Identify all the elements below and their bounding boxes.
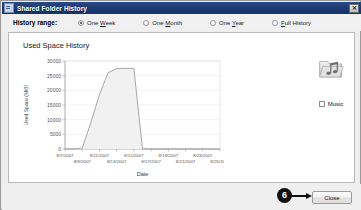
radio-one-year[interactable]: One Year [210, 20, 244, 26]
svg-text:8/23/2007: 8/23/2007 [193, 153, 213, 158]
history-range-label: History range: [13, 19, 57, 26]
svg-text:8/11/2007: 8/11/2007 [90, 153, 110, 158]
radio-dot-icon [78, 20, 84, 26]
music-checkbox-label: Music [328, 101, 344, 107]
shared-folder-history-window: Shared Folder History ✕ History range: O… [0, 0, 361, 210]
checkbox-icon [319, 101, 325, 107]
radio-one-week[interactable]: One Week [78, 20, 115, 26]
svg-text:10000: 10000 [47, 117, 61, 123]
content-panel: Used Space History 300002500020000150001… [8, 32, 355, 183]
svg-text:Date: Date [137, 171, 149, 177]
radio-one-year-label-pre: One [219, 20, 232, 26]
radio-full-history[interactable]: Full History [272, 20, 311, 26]
radio-one-month-label-post: onth [170, 20, 182, 26]
music-folder-icon [318, 55, 344, 81]
svg-text:8/19/2007: 8/19/2007 [159, 153, 179, 158]
radio-one-week-label-post: eek [106, 20, 116, 26]
close-icon[interactable]: ✕ [349, 4, 359, 13]
svg-text:8/25/2007: 8/25/2007 [210, 159, 224, 164]
radio-one-week-label-pre: One [87, 20, 100, 26]
svg-text:25000: 25000 [47, 73, 61, 79]
title-bar: Shared Folder History ✕ [2, 2, 361, 14]
history-range-radio-group: One Week One Month One Year Full History [78, 20, 339, 26]
svg-text:8/15/2007: 8/15/2007 [124, 153, 144, 158]
close-button[interactable]: Close [312, 191, 352, 204]
svg-text:0: 0 [58, 146, 61, 152]
svg-text:20000: 20000 [47, 87, 61, 93]
music-checkbox[interactable]: Music [311, 101, 351, 107]
svg-text:5000: 5000 [50, 131, 61, 137]
radio-dot-icon [272, 20, 278, 26]
window-app-icon [4, 3, 14, 13]
svg-text:8/7/2007: 8/7/2007 [56, 153, 74, 158]
shared-folder-block: Music [311, 55, 351, 107]
svg-text:15000: 15000 [47, 102, 61, 108]
svg-text:Used Space (MiB): Used Space (MiB) [23, 84, 29, 125]
radio-one-year-label-post: ear [235, 20, 244, 26]
svg-text:8/21/2007: 8/21/2007 [176, 159, 196, 164]
svg-text:30000: 30000 [47, 58, 61, 64]
radio-one-month-label-pre: One [152, 20, 165, 26]
svg-text:8/13/2007: 8/13/2007 [107, 159, 127, 164]
radio-one-month[interactable]: One Month [143, 20, 182, 26]
chart-svg: 3000025000200001500010000500008/7/20078/… [19, 55, 224, 180]
radio-dot-icon [143, 20, 149, 26]
footer-bar: Close [2, 184, 361, 210]
svg-text:8/17/2007: 8/17/2007 [141, 159, 161, 164]
radio-full-history-label-post: ull History [285, 20, 311, 26]
chart-title: Used Space History [23, 41, 89, 50]
window-title: Shared Folder History [17, 5, 349, 12]
svg-text:8/9/2007: 8/9/2007 [74, 159, 92, 164]
used-space-history-chart: 3000025000200001500010000500008/7/20078/… [19, 55, 224, 180]
history-range-row: History range: One Week One Month One Ye… [2, 14, 361, 31]
radio-dot-icon [210, 20, 216, 26]
